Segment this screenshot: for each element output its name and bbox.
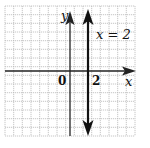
y-axis-label: y [60,8,69,23]
coordinate-graph: y x 0 2 x = 2 [0,0,150,148]
line-equation-label: x = 2 [96,27,131,42]
origin-label: 0 [58,74,66,88]
x-tick-label-2: 2 [92,74,100,88]
x-axis-label: x [125,74,133,89]
y-axis [66,11,75,136]
